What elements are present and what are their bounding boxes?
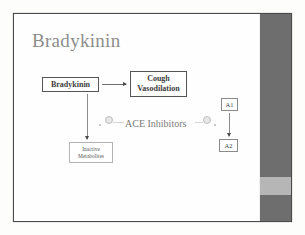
slide-root: Bradykinin Bradykinin Cough Vasodilation	[0, 0, 305, 235]
box-inactive-metabolites: Inactive Metabolites	[69, 142, 113, 163]
box-cough-vasodilation: Cough Vasodilation	[130, 71, 187, 97]
inhibition-connector-left	[113, 122, 124, 123]
box-bradykinin-label: Bradykinin	[51, 80, 90, 89]
box-cough-vasodilation-label: Cough Vasodilation	[137, 74, 179, 94]
sidebar-band-edge	[259, 14, 260, 221]
inhibition-tick-right	[214, 124, 216, 126]
box-a2: A2	[219, 139, 238, 152]
box-inactive-line1: Inactive	[82, 146, 100, 152]
arrow-bradykinin-to-inactive	[87, 94, 88, 139]
inhibition-marker-left-icon	[105, 116, 113, 124]
ace-inhibitors-label: ACE Inhibitors	[125, 118, 186, 129]
box-inactive-line2: Metabolites	[78, 153, 104, 159]
box-a2-label: A2	[225, 142, 233, 149]
page-title: Bradykinin	[32, 30, 121, 52]
box-bradykinin: Bradykinin	[42, 77, 99, 92]
box-a1: A1	[221, 98, 238, 111]
inhibition-connector-right	[195, 122, 203, 123]
arrow-a1-to-a2	[229, 113, 230, 136]
inhibition-marker-right-icon	[203, 116, 211, 124]
box-cough-line2: Vasodilation	[137, 84, 179, 93]
box-cough-line1: Cough	[147, 74, 170, 83]
box-a1-label: A1	[226, 101, 234, 108]
box-inactive-metabolites-label: Inactive Metabolites	[78, 146, 104, 160]
arrow-bradykinin-to-cough	[102, 84, 126, 85]
inhibition-tick-left	[99, 124, 101, 126]
sidebar-band-highlight	[260, 177, 291, 195]
slide-canvas: Bradykinin Bradykinin Cough Vasodilation	[14, 14, 291, 221]
slide-frame: Bradykinin Bradykinin Cough Vasodilation	[13, 13, 292, 222]
